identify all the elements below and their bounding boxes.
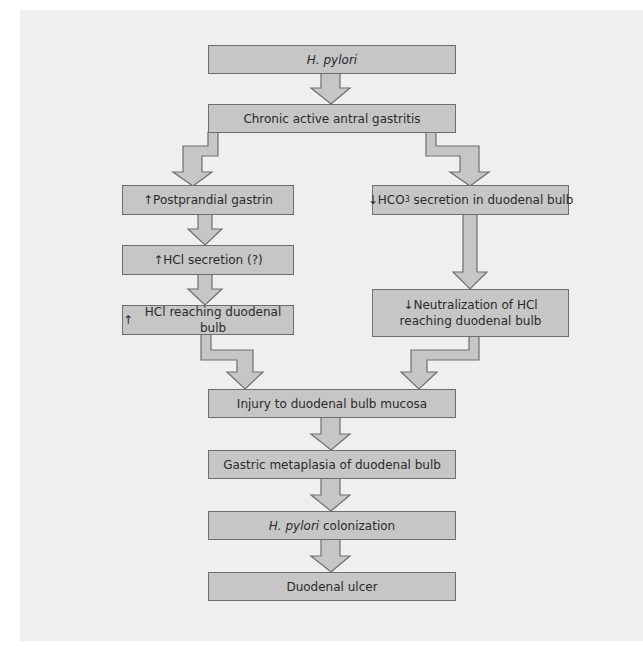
node-label: Duodenal ulcer [286, 579, 377, 595]
arrow-down-icon [311, 73, 350, 104]
node-label: HCl reaching duodenal bulb [133, 304, 293, 336]
node-label-italic: H. pylori [269, 518, 319, 534]
arrow-down-icon [188, 214, 222, 245]
node-duodenal-ulcer: Duodenal ulcer [208, 572, 456, 601]
node-postprandial-gastrin: ↑Postprandial gastrin [122, 185, 294, 215]
node-hcl-secretion: ↑HCl secretion (?) [122, 245, 294, 275]
node-hcl-reaching-bulb: ↑HCl reaching duodenal bulb [122, 305, 294, 335]
up-arrow-icon: ↑ [143, 192, 153, 208]
node-h-pylori-colonization: H. pylori colonization [208, 511, 456, 540]
arrow-down-icon [311, 539, 350, 572]
up-arrow-icon: ↑ [153, 252, 163, 268]
elbow-arrow-icon [401, 336, 479, 389]
node-hco3-secretion: ↓HCO3 secretion in duodenal bulb [372, 185, 569, 215]
elbow-arrow-icon [426, 132, 489, 186]
node-label: colonization [319, 518, 395, 534]
node-label: HCl secretion (?) [163, 252, 262, 268]
node-label: HCO [378, 192, 405, 208]
up-arrow-icon: ↑ [123, 312, 133, 328]
node-gastric-metaplasia: Gastric metaplasia of duodenal bulb [208, 450, 456, 479]
elbow-arrow-icon [201, 334, 263, 389]
node-neutralization: ↓Neutralization of HCl reaching duodenal… [372, 289, 569, 337]
arrow-down-icon [311, 417, 350, 450]
arrow-down-icon [311, 478, 350, 511]
node-injury-mucosa: Injury to duodenal bulb mucosa [208, 389, 456, 418]
elbow-arrow-icon [173, 132, 218, 186]
node-label: Gastric metaplasia of duodenal bulb [223, 457, 441, 473]
node-label: Postprandial gastrin [153, 192, 273, 208]
arrow-down-icon [453, 214, 487, 289]
node-label: secretion in duodenal bulb [410, 192, 574, 208]
down-arrow-icon: ↓ [368, 192, 378, 208]
node-h-pylori: H. pylori [208, 45, 456, 74]
node-chronic-gastritis: Chronic active antral gastritis [208, 104, 456, 133]
node-label: Chronic active antral gastritis [243, 111, 420, 127]
node-label: reaching duodenal bulb [400, 313, 542, 329]
node-label: H. pylori [307, 52, 357, 68]
down-arrow-icon: ↓ [403, 298, 413, 312]
node-label: Neutralization of HCl [413, 298, 537, 312]
arrow-down-icon [188, 274, 222, 305]
node-label: Injury to duodenal bulb mucosa [237, 396, 427, 412]
